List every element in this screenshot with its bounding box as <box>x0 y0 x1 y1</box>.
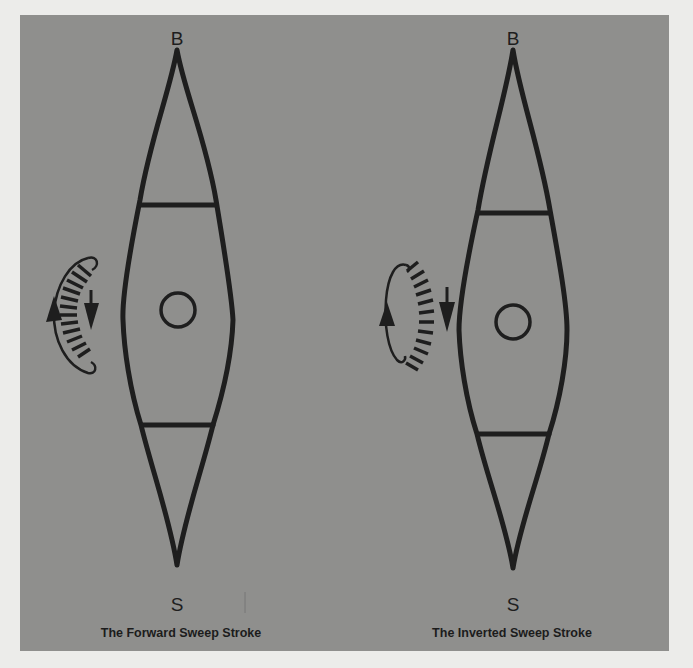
left-bow-label: B <box>171 29 184 48</box>
right-bow-label: B <box>507 29 520 48</box>
forward-sweep-stroke-icon <box>46 257 99 373</box>
left-canoe-hull <box>123 50 233 565</box>
right-canoe-hull <box>459 50 567 568</box>
left-caption: The Forward Sweep Stroke <box>101 627 261 640</box>
right-canoe <box>459 50 567 568</box>
left-stern-label: S <box>171 595 184 614</box>
left-canoe <box>123 50 233 565</box>
left-paddler-position-icon <box>161 293 195 327</box>
right-caption: The Inverted Sweep Stroke <box>432 627 592 640</box>
inverted-sweep-stroke-icon <box>379 262 455 370</box>
right-stern-label: S <box>507 595 520 614</box>
right-paddler-position-icon <box>496 305 530 339</box>
canoe-diagram <box>0 0 693 668</box>
